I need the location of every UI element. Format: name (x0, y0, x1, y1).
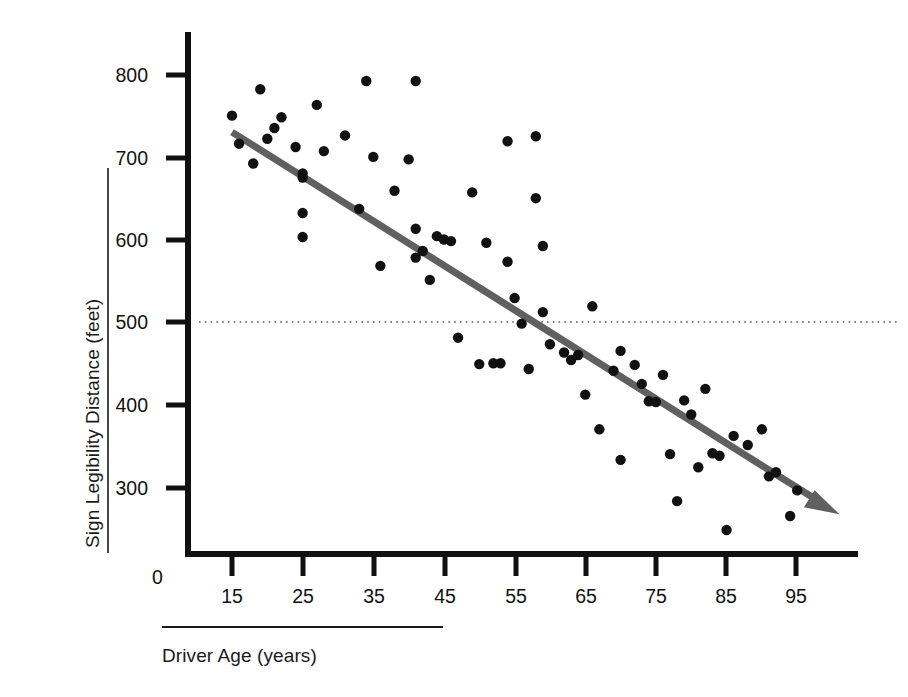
scatter-point (319, 146, 329, 156)
scatter-point (630, 360, 640, 370)
scatter-point (453, 332, 463, 342)
scatter-point (545, 339, 555, 349)
scatter-point (403, 154, 413, 164)
scatter-point (248, 158, 258, 168)
scatter-point (700, 384, 710, 394)
scatter-point (509, 293, 519, 303)
scatter-point (290, 142, 300, 152)
scatter-point (361, 76, 371, 86)
scatter-point (771, 467, 781, 477)
scatter-point (340, 130, 350, 140)
scatter-point (728, 431, 738, 441)
scatter-point (495, 358, 505, 368)
scatter-point (297, 208, 307, 218)
scatter-point (375, 261, 385, 271)
scatter-point (410, 224, 420, 234)
scatter-point (418, 246, 428, 256)
scatter-point (531, 193, 541, 203)
scatter-point (276, 112, 286, 122)
scatter-point (234, 138, 244, 148)
scatter-point (502, 136, 512, 146)
scatter-point (410, 76, 420, 86)
scatter-point (637, 379, 647, 389)
scatter-point (679, 395, 689, 405)
scatter-point (743, 440, 753, 450)
scatter-point (467, 187, 477, 197)
scatter-point (255, 84, 265, 94)
scatter-point (368, 152, 378, 162)
scatter-point (538, 307, 548, 317)
scatter-point (792, 485, 802, 495)
regression-trend-line (232, 132, 819, 501)
scatter-point (269, 123, 279, 133)
scatter-point (785, 511, 795, 521)
scatter-point (474, 359, 484, 369)
scatter-point (714, 451, 724, 461)
scatter-point (658, 370, 668, 380)
scatter-point (615, 455, 625, 465)
scatter-chart-figure: Sign Legibility Distance (feet) Driver A… (0, 0, 908, 697)
scatter-point (502, 257, 512, 267)
scatter-point (672, 496, 682, 506)
scatter-point (538, 241, 548, 251)
scatter-point (608, 366, 618, 376)
scatter-point (531, 131, 541, 141)
scatter-point (425, 275, 435, 285)
scatter-point (686, 409, 696, 419)
scatter-point (227, 110, 237, 120)
scatter-point (389, 186, 399, 196)
trend-line-group (232, 132, 840, 514)
scatter-point (573, 350, 583, 360)
scatter-point (297, 172, 307, 182)
scatter-point (594, 424, 604, 434)
scatter-point (354, 204, 364, 214)
scatter-point (587, 301, 597, 311)
scatter-point-group (227, 76, 803, 535)
scatter-point (262, 134, 272, 144)
scatter-point (446, 236, 456, 246)
scatter-point (757, 424, 767, 434)
scatter-point (516, 318, 526, 328)
scatter-point (665, 449, 675, 459)
scatter-point (312, 100, 322, 110)
scatter-point (693, 462, 703, 472)
scatter-point (524, 364, 534, 374)
plot-area (0, 0, 908, 697)
scatter-point (580, 389, 590, 399)
scatter-point (481, 238, 491, 248)
scatter-point (721, 525, 731, 535)
scatter-point (615, 346, 625, 356)
scatter-point (297, 232, 307, 242)
scatter-point (651, 397, 661, 407)
